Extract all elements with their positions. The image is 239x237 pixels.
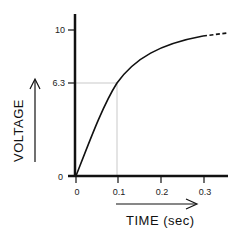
x-axis-title: TIME (sec) bbox=[126, 213, 195, 228]
voltage-curve bbox=[76, 36, 203, 176]
y-tick-label-10: 10 bbox=[55, 25, 65, 35]
voltage-curve-extrapolated bbox=[203, 33, 227, 36]
x-tick-label-0.1: 0.1 bbox=[113, 187, 126, 197]
y-tick-label-6.3: 6.3 bbox=[52, 78, 65, 88]
chart: 10 6.3 0 0 0.1 0.2 0.3 VOLTAGE TIME (sec… bbox=[0, 0, 239, 237]
y-tick-label-0: 0 bbox=[58, 172, 63, 182]
x-tick-label-0: 0 bbox=[74, 187, 79, 197]
x-tick-label-0.3: 0.3 bbox=[199, 187, 212, 197]
x-tick-label-0.2: 0.2 bbox=[156, 187, 169, 197]
y-axis-title: VOLTAGE bbox=[11, 99, 26, 162]
